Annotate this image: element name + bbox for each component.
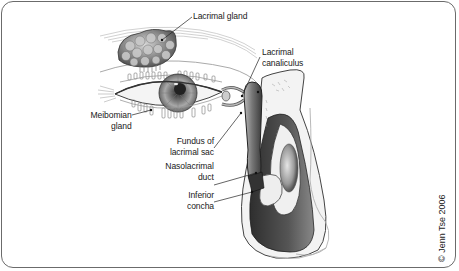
label-line: concha (187, 201, 214, 212)
lacrimal-apparatus-illustration (0, 0, 459, 271)
label-line: Fundus of (170, 136, 214, 147)
lacrimal-canaliculi (222, 87, 244, 105)
label-line: Nasolacrimal (166, 161, 214, 172)
label-line: duct (166, 172, 214, 183)
label-nasolacrimal-duct: Nasolacrimal duct (166, 161, 214, 182)
label-line: Lacrimal (262, 47, 303, 58)
label-line: canaliculus (262, 58, 303, 69)
label-line: gland (91, 121, 132, 132)
label-inferior-concha: Inferior concha (187, 190, 214, 211)
label-meibomian-gland: Meibomian gland (91, 110, 132, 131)
label-lacrimal-canaliculus: Lacrimal canaliculus (262, 47, 303, 68)
label-line: Inferior (187, 190, 214, 201)
label-line: lacrimal sac (170, 147, 214, 158)
eyelashes (98, 86, 116, 102)
copyright-notice: © Jenn Tse 2006 (437, 194, 447, 262)
label-fundus-of-lacrimal-sac: Fundus of lacrimal sac (170, 136, 214, 157)
label-lacrimal-gland: Lacrimal gland (193, 11, 247, 22)
label-line: Meibomian (91, 110, 132, 121)
